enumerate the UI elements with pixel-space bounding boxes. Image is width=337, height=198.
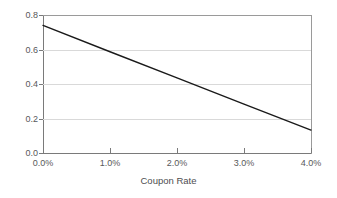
y-tick-mark-0.0: [39, 153, 43, 154]
right-axis-border: [311, 15, 312, 154]
series-polyline: [43, 25, 311, 130]
y-tick-label-0.6: 0.6: [25, 45, 38, 54]
y-tick-label-0.2: 0.2: [25, 114, 38, 123]
x-tick-label-0: 0.0%: [33, 159, 54, 168]
plot-area: 0.8 0.6 0.4 0.2 0.0 0.0% 1.0% 2.0% 3.0% …: [43, 15, 311, 153]
x-tick-label-2: 2.0%: [167, 159, 188, 168]
x-tick-mark-4: [311, 148, 312, 153]
y-tick-label-0.8: 0.8: [25, 11, 38, 20]
y-tick-label-0.4: 0.4: [25, 80, 38, 89]
x-tick-label-1: 1.0%: [100, 159, 121, 168]
x-axis-title: Coupon Rate: [0, 176, 337, 186]
series-line-chart: [43, 15, 311, 153]
chart-container: 0.8 0.6 0.4 0.2 0.0 0.0% 1.0% 2.0% 3.0% …: [0, 0, 337, 198]
x-tick-label-4: 4.0%: [301, 159, 322, 168]
x-tick-label-3: 3.0%: [234, 159, 255, 168]
y-tick-label-0.0: 0.0: [25, 149, 38, 158]
x-axis-line: 0.0 0.0% 1.0% 2.0% 3.0% 4.0%: [43, 153, 311, 154]
